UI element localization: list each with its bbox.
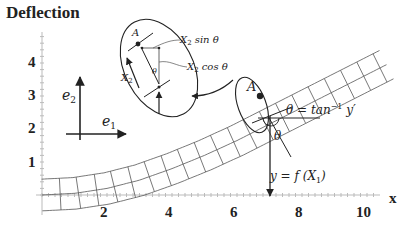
inset-detail: A X2 θ X2 sin θ X2 cos θ	[105, 6, 228, 130]
inset-point-a-marker	[136, 42, 141, 47]
y-tick-3: 3	[28, 87, 36, 103]
deflection-diagram: Deflection 4 3 2 1 2 4 6 8 10 x e2 e1 A	[0, 0, 414, 230]
e2-label: e2	[62, 87, 76, 105]
x-tick-8: 8	[295, 204, 303, 220]
e1-label: e1	[102, 113, 116, 131]
point-a-label: A	[246, 79, 256, 94]
inset-theta-label: θ	[152, 67, 157, 76]
x-axis-label: x	[389, 190, 397, 206]
x-axis: 2 4 6 8 10 x	[36, 190, 397, 220]
y-tick-1: 1	[28, 154, 36, 170]
x2-cos-theta-label: X2 cos θ	[186, 61, 228, 74]
figure-title: Deflection	[6, 3, 80, 22]
y-axis: 4 3 2 1	[28, 32, 44, 215]
x-tick-2: 2	[100, 204, 108, 220]
magnifier-ellipse: A θ = tan−1 y′ θ y = f (X1)	[229, 73, 356, 196]
curve-equation: y = f (X1)	[269, 169, 326, 185]
y-tick-4: 4	[28, 54, 36, 70]
x-tick-6: 6	[230, 204, 238, 220]
beam-mesh	[42, 51, 394, 211]
inset-point-a-label: A	[131, 27, 139, 38]
point-a-marker	[257, 93, 263, 99]
theta-equation: θ = tan−1 y′	[286, 102, 356, 117]
y-tick-2: 2	[28, 120, 36, 136]
x-tick-4: 4	[165, 204, 173, 220]
inset-x2-label: X2	[120, 72, 133, 85]
basis-vectors: e2 e1	[62, 77, 126, 140]
x-tick-10: 10	[356, 204, 371, 220]
theta-angle-label: θ	[274, 129, 282, 143]
